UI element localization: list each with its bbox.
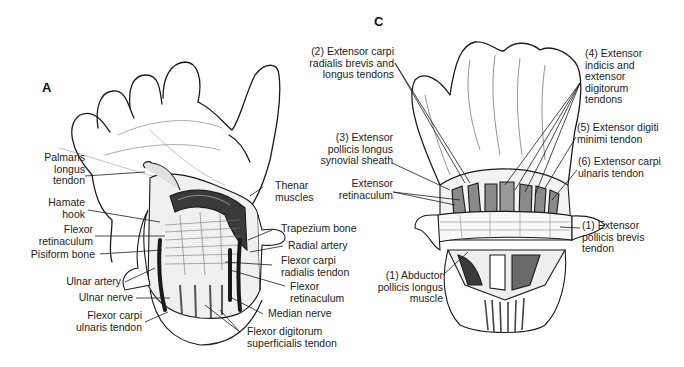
label-extensor-indicis-digitorum-tendons: (4) Extensor indicis and extensor digito…	[585, 48, 642, 106]
label-extensor-pollicis-brevis-tendon: (1) Extensor pollicis brevis tendon	[582, 220, 644, 255]
label-flexor-digitorum-superficialis-tendon: Flexor digitorum superficialis tendon	[247, 326, 337, 349]
label-palmaris-longus-tendon: Palmaris longus tendon	[44, 152, 85, 187]
label-thenar-muscles: Thenar muscles	[275, 180, 314, 203]
label-flexor-retinaculum-right: Flexor retinaculum	[290, 281, 344, 304]
label-extensor-pollicis-longus-sheath: (3) Extensor pollicis longus synovial sh…	[321, 132, 393, 167]
panel-letter-c: C	[374, 14, 383, 29]
hand-c-outline	[412, 42, 581, 185]
carpal-tunnel-exposure	[123, 162, 285, 319]
label-extensor-retinaculum: Extensor retinaculum	[339, 178, 393, 201]
label-radial-artery: Radial artery	[288, 240, 348, 252]
label-median-nerve: Median nerve	[268, 308, 332, 320]
leader-lines-c	[392, 63, 580, 275]
label-ulnar-nerve: Ulnar nerve	[79, 292, 133, 304]
label-ulnar-artery: Ulnar artery	[66, 276, 121, 288]
label-trapezium-bone: Trapezium bone	[281, 223, 356, 235]
dorsal-exposure	[415, 169, 605, 333]
label-flexor-retinaculum-left: Flexor retinaculum	[39, 224, 93, 247]
label-extensor-digiti-minimi-tendon: (5) Extensor digiti minimi tendon	[577, 122, 659, 145]
panel-letter-a: A	[42, 80, 51, 95]
label-hamate-hook: Hamate hook	[48, 197, 85, 220]
label-abductor-pollicis-longus-muscle: (1) Abductor pollicis longus muscle	[378, 270, 443, 305]
label-extensor-carpi-ulnaris-tendon: (6) Extensor carpi ulnaris tendon	[578, 156, 661, 179]
label-flexor-carpi-ulnaris-tendon: Flexor carpi ulnaris tendon	[76, 310, 142, 333]
label-flexor-carpi-radialis-tendon: Flexor carpi radialis tendon	[281, 255, 349, 278]
label-extensor-carpi-radialis-tendons: (2) Extensor carpi radialis brevis and l…	[309, 46, 394, 81]
label-pisiform-bone: Pisiform bone	[31, 249, 95, 261]
